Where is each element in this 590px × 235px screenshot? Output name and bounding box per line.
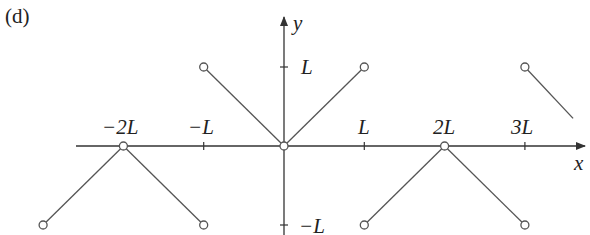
x-tick-label-L: L bbox=[358, 117, 370, 138]
panel-label: (d) bbox=[5, 6, 30, 27]
function-segment bbox=[525, 67, 573, 118]
open-endpoint bbox=[360, 221, 368, 229]
y-tick-label-L: L bbox=[301, 57, 313, 78]
function-segment bbox=[284, 67, 364, 146]
open-endpoint bbox=[441, 142, 449, 150]
open-endpoint bbox=[521, 63, 529, 71]
open-endpoint bbox=[521, 221, 529, 229]
open-endpoint bbox=[280, 142, 288, 150]
y-axis-label: y bbox=[293, 13, 302, 34]
function-segment bbox=[364, 146, 444, 225]
function-segment bbox=[43, 146, 123, 225]
function-segment bbox=[204, 67, 284, 146]
function-segment bbox=[445, 146, 525, 225]
y-tick-label-negL: −L bbox=[299, 216, 325, 235]
open-endpoint bbox=[200, 63, 208, 71]
open-endpoint bbox=[39, 221, 47, 229]
open-endpoint bbox=[119, 142, 127, 150]
open-endpoint bbox=[360, 63, 368, 71]
x-axis-label: x bbox=[574, 153, 583, 174]
open-endpoint bbox=[200, 221, 208, 229]
x-tick-label-neg2L: −2L bbox=[102, 117, 138, 138]
x-tick-label-2L: 2L bbox=[433, 117, 455, 138]
x-tick-label-negL: −L bbox=[188, 117, 214, 138]
sawtooth-function-diagram bbox=[0, 0, 590, 235]
x-tick-label-3L: 3L bbox=[511, 117, 533, 138]
function-segment bbox=[123, 146, 203, 225]
